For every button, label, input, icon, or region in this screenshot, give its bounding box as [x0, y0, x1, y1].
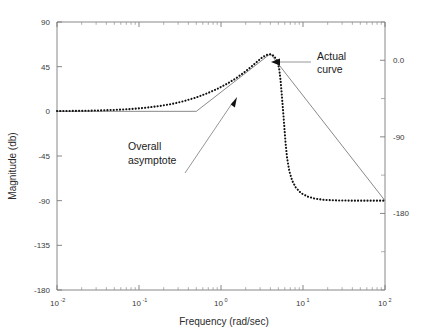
x-tick-exponent: 2 — [389, 297, 392, 303]
y-tick-label-left: 90 — [41, 18, 50, 27]
asymptote-leader — [185, 102, 233, 173]
y-tick-label-left: -135 — [34, 241, 51, 250]
y-tick-label-right: -180 — [393, 209, 410, 218]
overall-asymptote-curve — [57, 54, 385, 201]
x-tick-label: 10 — [214, 299, 223, 308]
x-tick-label: 10 — [132, 299, 141, 308]
y-tick-label-left: -45 — [38, 152, 50, 161]
y-tick-label-left: -180 — [34, 286, 51, 295]
actual-curve-label-line1: Actual — [317, 50, 346, 62]
x-tick-label: 10 — [296, 299, 305, 308]
annotation-leaders — [185, 59, 311, 173]
tick-label-group: 10-210-110010110290450-45-90-135-1800.0-… — [34, 18, 410, 308]
y-tick-label-left: 45 — [41, 63, 50, 72]
x-tick-exponent: -1 — [143, 297, 148, 303]
plot-svg: 10-210-110010110290450-45-90-135-1800.0-… — [0, 0, 429, 336]
x-axis-title: Frequency (rad/sec) — [179, 316, 268, 327]
asymptote-arrowhead — [231, 97, 237, 107]
y-tick-label-left: 0 — [46, 107, 51, 116]
asymptote-label-line1: Overall — [128, 140, 161, 152]
x-tick-exponent: 1 — [307, 297, 310, 303]
y-tick-label-right: -90 — [393, 133, 405, 142]
actual-curve-label-line2: curve — [317, 63, 343, 75]
x-tick-exponent: 0 — [225, 297, 228, 303]
actual-curve — [57, 54, 385, 200]
x-tick-label: 10 — [378, 299, 387, 308]
x-tick-exponent: -2 — [61, 297, 66, 303]
y-tick-label-right: 0.0 — [393, 56, 405, 65]
bode-plot-figure: 10-210-110010110290450-45-90-135-1800.0-… — [0, 0, 429, 336]
y-tick-label-left: -90 — [38, 197, 50, 206]
y-axis-title: Magnitude (db) — [7, 132, 18, 199]
asymptote-label-line2: asymptote — [128, 154, 177, 166]
x-tick-label: 10 — [50, 299, 59, 308]
